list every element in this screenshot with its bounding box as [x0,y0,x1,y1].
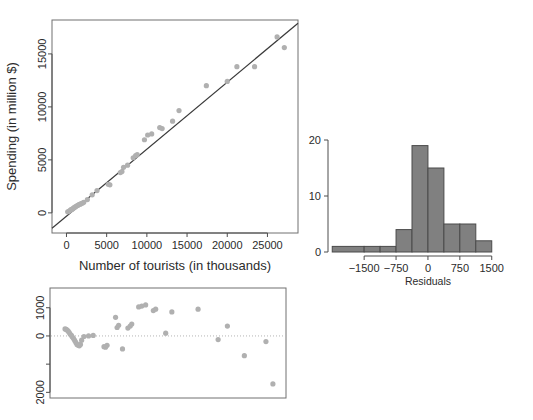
residual-point [169,309,174,314]
histogram-bar [412,146,428,252]
x-tick-label: 5000 [94,239,118,251]
x-tick-label: 15000 [172,239,203,251]
data-point [274,34,279,39]
x-tick-label: 0 [425,262,431,274]
y-tick-label: 0 [315,246,321,258]
y-tick-label: 20 [309,134,321,146]
data-point [142,137,147,142]
histogram-bar [476,241,492,252]
x-tick-label: 25000 [252,239,283,251]
histogram-bar [396,230,412,252]
y-axis-title: Spending (in million $) [4,62,19,191]
residual-histogram-svg: 01020−1500−75007501500Residuals [300,115,533,285]
y-tick-label: 15000 [36,39,48,70]
x-tick-label: 0 [63,239,69,251]
residual-point [195,307,200,312]
data-point [160,126,165,131]
x-tick-label: 1500 [480,262,504,274]
plot-frame [50,288,286,398]
residual-point [116,323,121,328]
histogram-bar [364,246,380,252]
residual-histogram-panel: 01020−1500−75007501500Residuals [300,115,533,285]
residual-point [153,307,158,312]
residual-scatter-svg: 100002000 [0,280,300,420]
data-point [107,182,112,187]
x-tick-label: 750 [451,262,469,274]
y-tick-label: 5000 [36,148,48,172]
data-point [90,192,95,197]
residual-point [120,346,125,351]
x-tick-label: −1500 [349,262,380,274]
y-tick-label: 1000 [34,296,46,320]
x-tick-label: −750 [384,262,409,274]
data-point [85,197,90,202]
x-axis-title: Number of tourists (in thousands) [79,258,271,273]
y-tick-label: 10 [309,190,321,202]
histogram-bar [460,224,476,252]
residual-point [91,333,96,338]
regression-line [52,23,298,228]
data-point [234,64,239,69]
residual-point [104,343,109,348]
data-point [176,108,181,113]
histogram-bar [380,246,396,252]
residual-point [270,381,275,386]
data-point [94,188,99,193]
residual-point [143,302,148,307]
y-tick-label: 10000 [36,92,48,123]
data-point [135,152,140,157]
residual-point [263,339,268,344]
data-point [252,64,257,69]
scatter-plot-svg: 0500010000150002000025000050001000015000… [0,0,320,280]
data-point [170,119,175,124]
x-tick-label: 10000 [132,239,163,251]
residual-point [216,337,221,342]
x-tick-label: 20000 [212,239,243,251]
residual-point [86,333,91,338]
histogram-bar [332,246,364,252]
residual-point [242,353,247,358]
histogram-bar [428,168,444,252]
data-point [125,163,130,168]
histogram-bar [444,224,460,252]
y-tick-label: 2000 [34,380,46,404]
y-tick-label: 0 [34,333,46,339]
residual-point [163,331,168,336]
residual-point [129,322,134,327]
residual-point [81,334,86,339]
data-point [282,45,287,50]
data-point [225,79,230,84]
residual-point [225,323,230,328]
data-point [149,131,154,136]
x-axis-title: Residuals [405,275,451,285]
residual-point [113,315,118,320]
scatter-plot-panel: 0500010000150002000025000050001000015000… [0,0,320,280]
data-point [204,83,209,88]
residual-scatter-panel: 100002000 [0,280,300,420]
y-tick-label: 0 [36,210,48,216]
